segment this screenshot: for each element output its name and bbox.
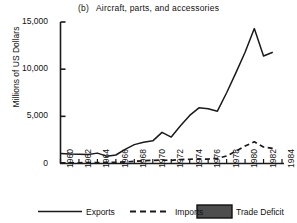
- chart-container: (b)Aircraft, parts, and accessories Mill…: [0, 0, 297, 223]
- legend-label-imports: Imports: [175, 207, 203, 217]
- plot-area: [0, 0, 297, 223]
- chart-legend: Exports Imports Trade Deficit: [0, 200, 297, 223]
- legend-label-exports: Exports: [86, 207, 115, 217]
- axis-lines: [60, 22, 284, 164]
- series-line-imports: [61, 142, 273, 163]
- series-line-exports: [61, 29, 273, 157]
- data-series-group: [61, 29, 273, 163]
- legend-label-trade-deficit: Trade Deficit: [236, 207, 284, 217]
